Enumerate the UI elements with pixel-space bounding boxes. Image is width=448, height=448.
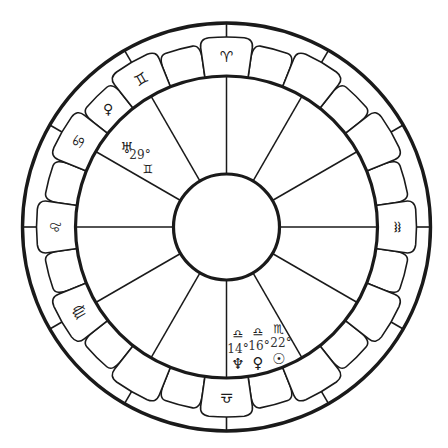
venus-planet-icon: ♀ [103, 101, 113, 117]
aries-sign-icon: ♈ [220, 48, 233, 66]
degree-label: 22° [270, 336, 291, 350]
placement-neptune: ♎14°♆ [227, 327, 248, 373]
sun-planet-icon: ☉ [272, 350, 285, 368]
scorpio-sign-icon: ♏ [274, 322, 285, 336]
house-cusp-line [96, 254, 181, 303]
aquarius-sign-icon: ♒ [388, 220, 406, 233]
center-circle [174, 174, 280, 280]
house-cusp-line [272, 152, 357, 201]
neptune-planet-icon: ♆ [231, 355, 244, 373]
sign-connector-line [125, 392, 132, 404]
house-cusp-line [151, 273, 200, 358]
sign-connector-line [391, 125, 403, 132]
uranus-planet-icon: ♅ [120, 139, 133, 157]
libra-sign-icon: ♎ [233, 327, 244, 341]
libra-sign-icon: ♎ [253, 325, 264, 339]
sign-connector-line [125, 50, 132, 62]
house-cusp-line [253, 96, 302, 181]
house-cusp-line [272, 254, 357, 303]
gemini-sign-icon: ♊ [143, 162, 154, 176]
degree-label: 16° [248, 339, 269, 353]
libra-sign-icon: ♎ [220, 389, 233, 407]
sign-connector-line [391, 322, 403, 329]
planet-placements: ♊29°♅♎14°♆♎16°♀♏22°☉ [120, 139, 291, 373]
house-cusp-line [151, 96, 200, 181]
sign-connector-line [50, 125, 62, 132]
sign-connector-line [322, 50, 329, 62]
placement-venus: ♎16°♀ [248, 325, 269, 372]
venus-planet-icon: ♀ [253, 354, 264, 372]
placement-uranus: ♊29°♅ [120, 139, 153, 176]
placement-sun: ♏22°☉ [270, 322, 291, 368]
astrology-chart-wheel: ♈♒♎♍♌♋♊♀ ♊29°♅♎14°♆♎16°♀♏22°☉ [0, 0, 448, 448]
leo-sign-icon: ♌ [47, 220, 65, 233]
sign-connector-line [50, 322, 62, 329]
degree-label: 14° [227, 342, 248, 356]
sign-connector-line [322, 392, 329, 404]
